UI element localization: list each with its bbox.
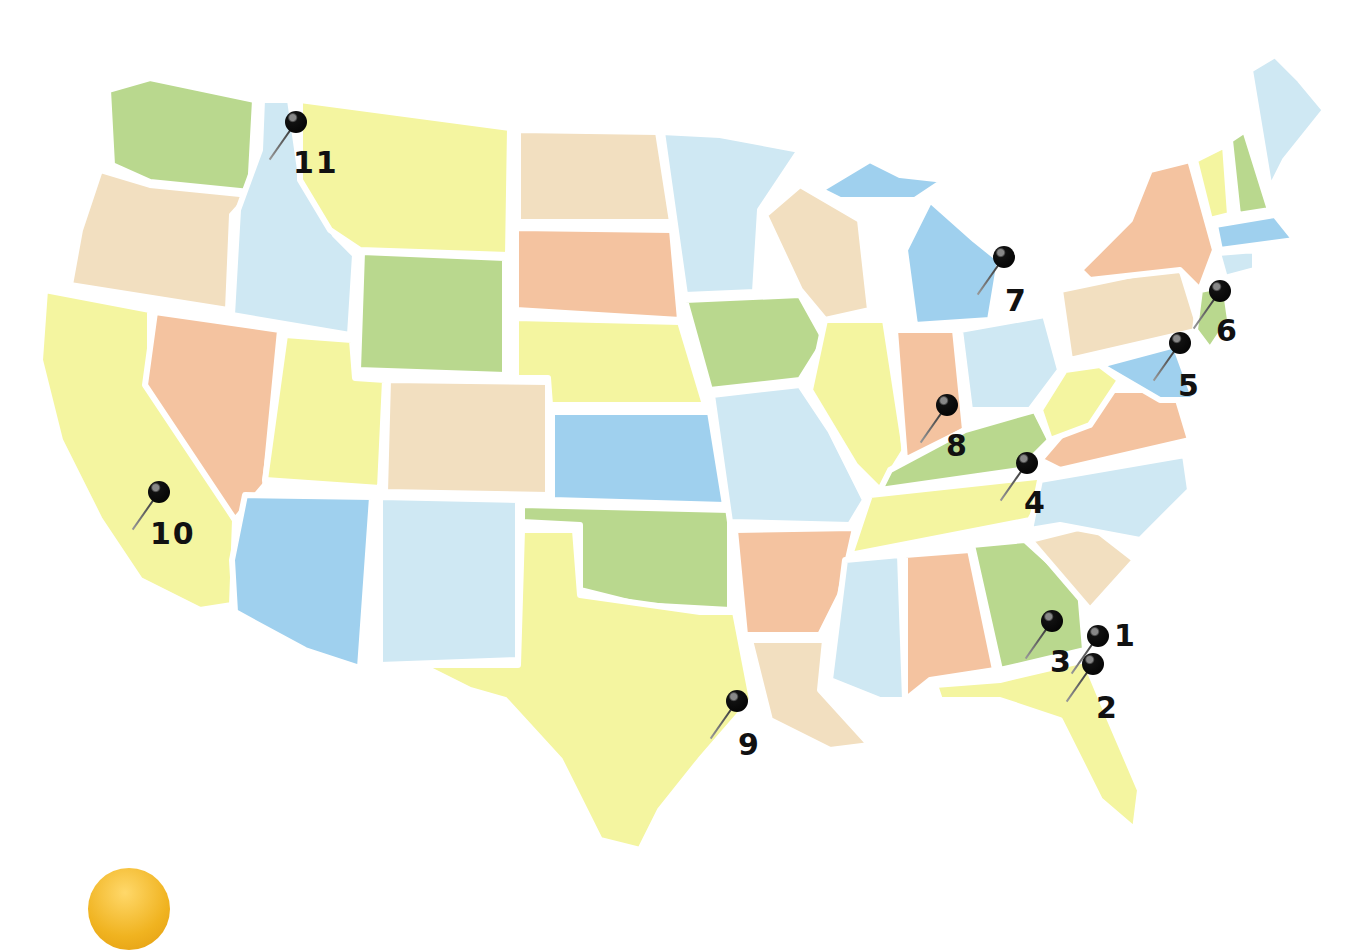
- pin-head-icon: [936, 394, 958, 416]
- pin-head-icon: [1082, 653, 1104, 675]
- pin-head-icon: [1016, 452, 1038, 474]
- pin-label: 7: [1005, 283, 1028, 318]
- state-oregon[interactable]: [70, 170, 250, 310]
- pin-label: 1: [1114, 618, 1137, 653]
- state-new-mexico[interactable]: [380, 497, 518, 665]
- state-michigan-lower[interactable]: [905, 200, 1000, 325]
- yellow-ball-decoration: [88, 868, 170, 950]
- state-maine[interactable]: [1250, 55, 1325, 190]
- pin-head-icon: [726, 690, 748, 712]
- pin-label: 3: [1050, 644, 1073, 679]
- pin-head-icon: [993, 246, 1015, 268]
- state-iowa[interactable]: [685, 295, 825, 390]
- state-mississippi[interactable]: [830, 555, 905, 700]
- pin-label: 6: [1216, 313, 1239, 348]
- state-south-dakota[interactable]: [516, 228, 680, 320]
- pin-label: 8: [946, 428, 969, 463]
- pin-label: 2: [1096, 690, 1119, 725]
- pin-head-icon: [1087, 625, 1109, 647]
- pin-label: 4: [1024, 485, 1047, 520]
- pin-head-icon: [148, 481, 170, 503]
- pin-label: 10: [150, 516, 196, 551]
- state-arizona[interactable]: [232, 495, 372, 668]
- pin-head-icon: [285, 111, 307, 133]
- pin-head-icon: [1041, 610, 1063, 632]
- pin-head-icon: [1169, 332, 1191, 354]
- state-north-dakota[interactable]: [518, 130, 672, 222]
- state-wyoming[interactable]: [358, 252, 505, 375]
- state-ohio[interactable]: [960, 315, 1060, 410]
- state-washington[interactable]: [108, 78, 255, 192]
- pin-label: 5: [1178, 368, 1201, 403]
- pin-head-icon: [1209, 280, 1231, 302]
- state-massachusetts[interactable]: [1215, 215, 1295, 250]
- pin-label: 9: [738, 727, 761, 762]
- state-connecticut[interactable]: [1218, 250, 1255, 278]
- state-new-york[interactable]: [1080, 160, 1215, 290]
- state-michigan-upper[interactable]: [820, 160, 945, 200]
- state-florida[interactable]: [935, 660, 1140, 830]
- state-kansas[interactable]: [552, 412, 725, 505]
- state-colorado[interactable]: [385, 380, 548, 495]
- pin-label: 11: [293, 145, 339, 180]
